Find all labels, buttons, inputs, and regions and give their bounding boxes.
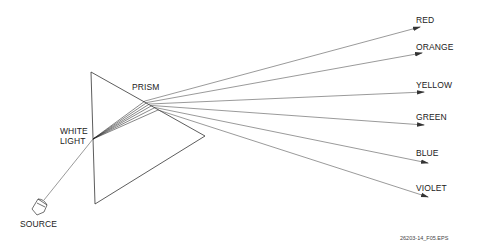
white-light-beam (44, 139, 93, 200)
color-label-yellow: YELLOW (416, 81, 452, 90)
color-label-green: GREEN (416, 113, 447, 122)
prism-label: PRISM (132, 83, 159, 92)
figure-id: 26203-14_F05.EPS (400, 235, 448, 241)
white-light-label-line2: LIGHT (60, 137, 86, 146)
color-label-red: RED (416, 16, 434, 25)
color-label-violet: VIOLET (416, 184, 447, 193)
ray-red (145, 27, 420, 101)
ray-blue (155, 108, 428, 164)
prism-diagram (0, 0, 477, 243)
source-label: SOURCE (20, 220, 57, 229)
dispersed-rays (145, 27, 428, 197)
ray-yellow (150, 92, 425, 104)
color-label-blue: BLUE (416, 149, 439, 158)
white-light-label-line1: WHITE (60, 127, 88, 136)
ray-orange (147, 53, 422, 103)
internal-rays (93, 101, 158, 139)
light-source-icon (32, 199, 47, 215)
ray-violet (158, 110, 428, 197)
color-label-orange: ORANGE (416, 43, 453, 52)
